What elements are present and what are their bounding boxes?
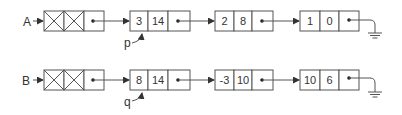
node-coef: 10 [304,74,316,86]
node-a-3: 1 0 [300,11,359,31]
node-exp: 0 [326,15,332,27]
pointer-label-p: p [124,36,131,50]
linked-list-diagram: A 3 14 2 8 [0,0,402,115]
list-b: B 8 14 -3 10 [22,70,382,109]
node-coef: 8 [136,74,142,86]
node-coef: 2 [221,15,227,27]
node-b-3: 10 6 [300,70,359,90]
node-coef: 3 [136,15,142,27]
node-exp: 6 [326,74,332,86]
head-label-a: A [23,15,31,29]
node-exp: 8 [240,15,246,27]
list-a: A 3 14 2 8 [23,11,382,50]
node-exp: 10 [237,74,249,86]
node-coef: 1 [307,15,313,27]
pointer-p: p [124,34,142,50]
node-coef: -3 [220,74,230,86]
node-exp: 14 [152,15,164,27]
pointer-label-q: q [124,95,131,109]
node-exp: 14 [152,74,164,86]
head-label-b: B [22,74,30,88]
pointer-q: q [124,93,142,109]
